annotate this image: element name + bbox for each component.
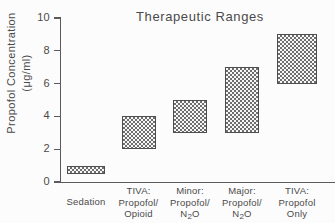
x-label-line2: Propofol	[266, 197, 328, 209]
range-bar	[67, 166, 105, 174]
x-label-line2: Propofol/	[211, 197, 273, 209]
y-tick-mark	[54, 83, 60, 84]
therapeutic-ranges-chart: Therapeutic Ranges Propofol Concentratio…	[0, 0, 335, 223]
x-axis-line	[60, 182, 335, 183]
range-bar	[277, 34, 317, 83]
y-axis-label-line1: Propofol Concentration	[4, 0, 19, 158]
y-tick-mark	[54, 116, 60, 117]
range-bar	[122, 116, 156, 149]
chart-title: Therapeutic Ranges	[105, 9, 295, 24]
y-tick-mark	[54, 181, 60, 182]
x-label-line3: N2O	[211, 208, 273, 223]
y-tick-label: 0	[28, 175, 50, 187]
y-axis-line	[60, 17, 61, 183]
x-label-line3: Only	[266, 208, 328, 220]
y-tick-label: 2	[28, 142, 50, 154]
x-label-line1: Major:	[211, 185, 273, 197]
range-bar	[225, 67, 259, 133]
y-tick-mark	[54, 17, 60, 18]
y-tick-label: 8	[28, 44, 50, 56]
y-tick-label: 4	[28, 109, 50, 121]
x-label-line1: TIVA:	[266, 185, 328, 197]
x-axis-label-group: Major:Propofol/N2O	[211, 185, 273, 223]
y-tick-mark	[54, 149, 60, 150]
y-tick-label: 6	[28, 77, 50, 89]
range-bar	[173, 100, 207, 133]
y-tick-label: 10	[28, 11, 50, 23]
y-tick-mark	[54, 50, 60, 51]
x-axis-label-group: TIVA:PropofolOnly	[266, 185, 328, 220]
